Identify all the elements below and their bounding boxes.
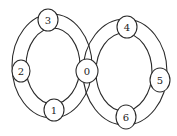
left-loop-inner [26, 28, 80, 104]
figure-eight-diagram: 3 2 1 0 4 5 6 [0, 0, 177, 136]
node-6: 6 [116, 105, 136, 129]
node-label: 5 [157, 75, 163, 86]
node-0: 0 [76, 59, 98, 83]
node-label: 3 [45, 15, 51, 26]
node-2: 2 [12, 60, 30, 82]
node-label: 6 [123, 112, 129, 123]
node-1: 1 [44, 99, 64, 121]
node-label: 1 [51, 105, 57, 116]
node-label: 2 [18, 66, 24, 77]
node-4: 4 [117, 16, 137, 38]
node-5: 5 [150, 68, 170, 92]
node-label: 4 [124, 22, 130, 33]
node-label: 0 [84, 66, 90, 77]
right-loop-inner [96, 33, 152, 111]
node-3: 3 [38, 9, 58, 31]
